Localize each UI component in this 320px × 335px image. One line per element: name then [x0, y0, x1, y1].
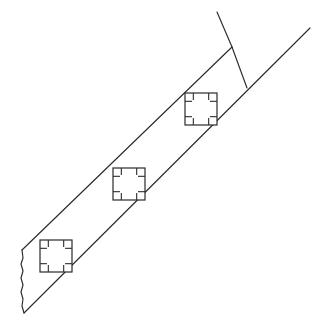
line-diagram [0, 0, 320, 335]
figure-canvas [0, 0, 320, 335]
component-body [40, 240, 72, 272]
component-symbol[interactable] [185, 93, 217, 125]
component-body [113, 168, 145, 200]
component-body [185, 93, 217, 125]
component-symbol[interactable] [40, 240, 72, 272]
component-symbol[interactable] [113, 168, 145, 200]
diagram-background [0, 0, 320, 335]
